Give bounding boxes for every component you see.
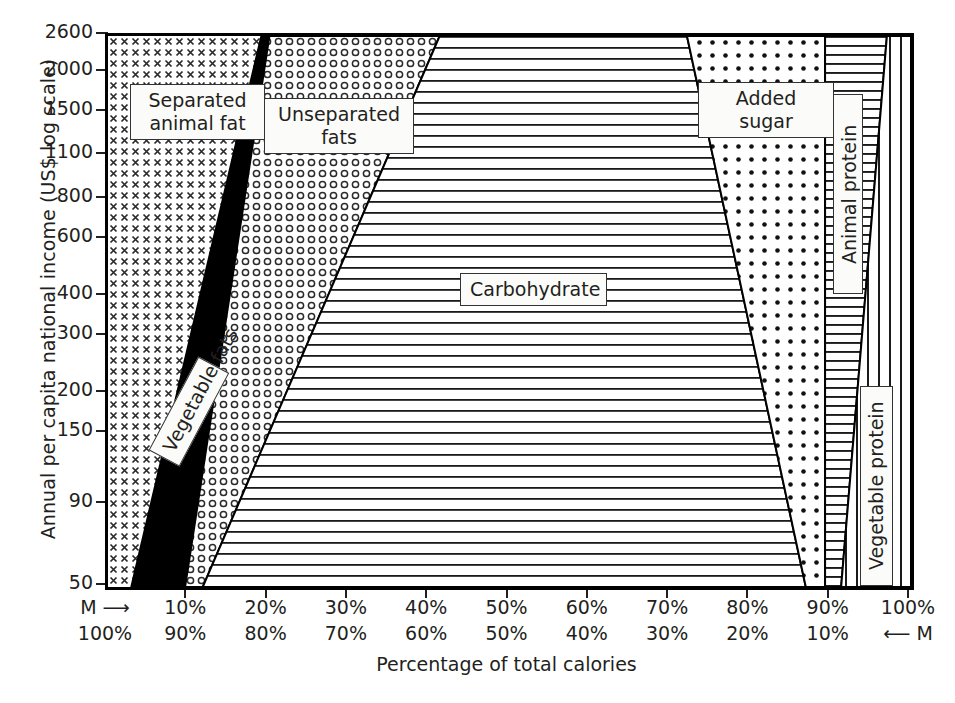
y-tick-label-2600: 2600 (45, 20, 93, 42)
band-label-carbohydrate: Carbohydrate (460, 273, 607, 306)
x-tick-label-top-10: 100% (856, 596, 955, 618)
y-tick-label-2000: 2000 (45, 57, 93, 79)
y-tick-label-200: 200 (57, 378, 93, 400)
band-label-unseparated-fats: Unseparated fats (264, 98, 414, 154)
band-label-separated-animal-fat: Separated animal fat (130, 84, 265, 140)
y-tick-label-1100: 1100 (45, 140, 93, 162)
y-tick-label-1500: 1500 (45, 97, 93, 119)
band-label-animal-protein: Animal protein (833, 94, 863, 294)
y-tick-label-90: 90 (69, 489, 93, 511)
x-tick-label-bottom-10: ⟵ M (856, 622, 955, 644)
y-tick-label-600: 600 (57, 224, 93, 246)
y-tick-label-50: 50 (69, 571, 93, 593)
chart-root: Annual per capita national income (US$ l… (0, 0, 955, 703)
y-tick-label-150: 150 (57, 418, 93, 440)
y-tick-label-800: 800 (57, 184, 93, 206)
band-label-added-sugar: Added sugar (698, 82, 834, 138)
x-axis-title: Percentage of total calories (105, 653, 908, 675)
y-tick-label-400: 400 (57, 281, 93, 303)
band-label-vegetable-protein: Vegetable protein (860, 386, 893, 586)
y-tick-label-300: 300 (57, 321, 93, 343)
plot-area: Separated animal fat Vegetable fats Unse… (105, 33, 914, 590)
